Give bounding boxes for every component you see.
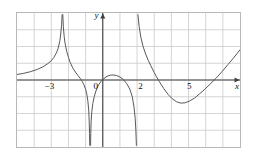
x-tick-label-2: 2: [138, 81, 143, 91]
y-axis-label: y: [95, 10, 99, 20]
plot-area: [16, 12, 241, 148]
curve-middle-left-branch: [63, 15, 90, 146]
curve-left-branch: [17, 15, 62, 75]
curve-layer: [17, 13, 240, 147]
x-axis-label: x: [235, 81, 239, 91]
x-tick-label-0: 0: [94, 81, 99, 91]
x-tick-label-5: 5: [187, 81, 192, 91]
graph-figure: −3 0 2 5 x y: [0, 0, 257, 158]
x-tick-label-minus-3: −3: [45, 81, 55, 91]
